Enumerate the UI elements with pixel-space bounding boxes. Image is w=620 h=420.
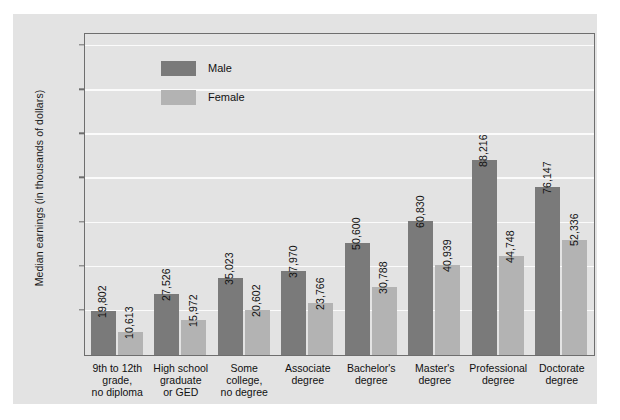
bar-male	[408, 221, 433, 355]
x-category-line: degree	[403, 374, 467, 386]
bar-value-label: 15,972	[187, 294, 199, 327]
bar-male	[345, 243, 370, 355]
x-category-line: Professional	[467, 362, 531, 374]
gridline	[85, 133, 594, 134]
bar-male	[154, 294, 179, 355]
y-tick-mark	[79, 88, 85, 89]
legend-swatch-female	[161, 90, 196, 105]
y-tick-mark	[79, 221, 85, 222]
x-category-label: Somecollege,no degree	[213, 362, 277, 399]
y-axis-title: Median earnings (in thousands of dollars…	[33, 58, 45, 318]
bar-value-label: 40,939	[441, 239, 453, 272]
bar-value-label: 10,613	[123, 306, 135, 339]
plot-inner: 2040608010012014019,80210,61327,52615,97…	[85, 34, 594, 355]
y-tick-mark	[79, 133, 85, 134]
x-category-line: or GED	[149, 386, 213, 398]
x-category-label: Associatedegree	[276, 362, 340, 386]
x-category-line: Doctorate	[530, 362, 594, 374]
x-category-label: High schoolgraduateor GED	[149, 362, 213, 399]
gridline	[85, 45, 594, 46]
chart-container: Median earnings (in thousands of dollars…	[0, 0, 620, 420]
y-tick-mark	[79, 265, 85, 266]
bar-value-label: 50,600	[350, 218, 362, 251]
x-category-line: High school	[149, 362, 213, 374]
y-tick-mark	[79, 309, 85, 310]
bar-value-label: 60,830	[414, 195, 426, 228]
plot-area: 2040608010012014019,80210,61327,52615,97…	[84, 33, 595, 356]
x-category-line: degree	[530, 374, 594, 386]
gridline	[85, 177, 594, 178]
bar-value-label: 44,748	[504, 231, 516, 264]
x-category-line: graduate	[149, 374, 213, 386]
x-category-label: Professionaldegree	[467, 362, 531, 386]
y-tick-mark	[79, 177, 85, 178]
legend-swatch-male	[161, 61, 196, 76]
x-category-line: Some	[213, 362, 277, 374]
x-category-line: degree	[276, 374, 340, 386]
bar-female	[435, 265, 460, 355]
bar-value-label: 37,970	[287, 245, 299, 278]
bar-value-label: 88,216	[477, 135, 489, 168]
bar-value-label: 19,802	[96, 286, 108, 319]
x-category-line: college,	[213, 374, 277, 386]
bar-female	[499, 256, 524, 355]
x-category-line: no diploma	[86, 386, 150, 398]
legend-label: Female	[208, 91, 245, 103]
bar-male	[218, 278, 243, 355]
bar-value-label: 27,526	[160, 269, 172, 302]
figure-panel: Median earnings (in thousands of dollars…	[13, 14, 597, 404]
x-category-line: degree	[467, 374, 531, 386]
legend-label: Male	[208, 62, 232, 74]
x-category-line: 9th to 12th	[86, 362, 150, 374]
x-category-label: Bachelor'sdegree	[340, 362, 404, 386]
bar-male	[472, 160, 497, 355]
bar-female	[562, 240, 587, 356]
x-category-line: grade,	[86, 374, 150, 386]
bar-value-label: 23,766	[314, 277, 326, 310]
bar-male	[281, 271, 306, 355]
x-category-line: no degree	[213, 386, 277, 398]
x-category-label: 9th to 12thgrade,no diploma	[86, 362, 150, 399]
x-category-line: Bachelor's	[340, 362, 404, 374]
bar-female	[308, 303, 333, 355]
gridline	[85, 222, 594, 223]
x-category-line: Master's	[403, 362, 467, 374]
bar-value-label: 76,147	[541, 161, 553, 194]
bar-male	[535, 187, 560, 355]
bar-female	[372, 287, 397, 355]
bar-value-label: 20,602	[250, 284, 262, 317]
bar-value-label: 52,336	[568, 214, 580, 247]
x-category-line: degree	[340, 374, 404, 386]
bar-value-label: 30,788	[377, 261, 389, 294]
bar-value-label: 35,023	[223, 252, 235, 285]
y-tick-mark	[79, 44, 85, 45]
x-category-label: Doctoratedegree	[530, 362, 594, 386]
x-category-line: Associate	[276, 362, 340, 374]
x-category-label: Master'sdegree	[403, 362, 467, 386]
